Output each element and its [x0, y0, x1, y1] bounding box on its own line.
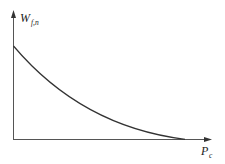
x-axis-label: P	[200, 144, 209, 158]
x-axis-arrow-icon	[204, 137, 212, 142]
decay-curve	[14, 46, 186, 139]
diagram: W f,n P c	[0, 0, 225, 164]
y-axis-label: W	[20, 11, 31, 25]
x-axis-subscript: c	[209, 151, 213, 160]
y-axis-subscript: f,n	[31, 18, 39, 27]
y-axis-arrow-icon	[11, 10, 16, 18]
